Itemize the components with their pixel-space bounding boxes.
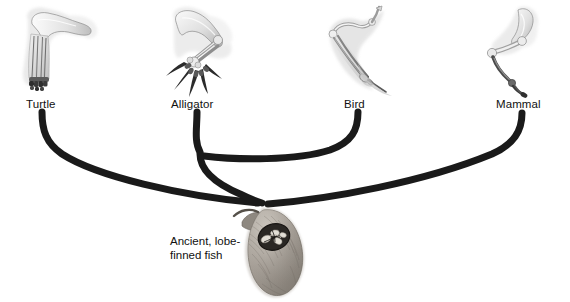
lobe-finned-fish-illustration (228, 196, 318, 302)
branch-alligator (196, 112, 200, 152)
root-label-ancient-lobe-finned-fish: Ancient, lobe- finned fish (170, 234, 240, 262)
root-label-line-2: finned fish (170, 248, 240, 262)
cladogram-figure: Turtle Alligator Bird Mammal (0, 0, 570, 302)
branch-bird (204, 112, 358, 159)
root-label-line-1: Ancient, lobe- (170, 234, 240, 248)
